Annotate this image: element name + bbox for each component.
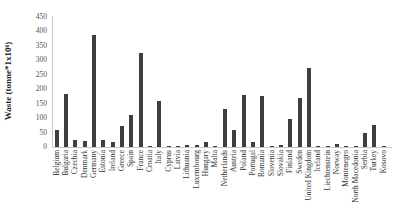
x-tick-label: Bulgaria <box>62 150 70 176</box>
x-tick-label: Estonia <box>99 150 107 173</box>
bar-norway <box>335 144 339 147</box>
x-tick-label: Serbia <box>361 150 369 169</box>
bar-estonia <box>101 140 105 147</box>
bar-romania <box>260 96 264 147</box>
bar-lithuania <box>185 145 189 147</box>
x-tick-label: Germany <box>90 150 98 178</box>
bar-belgium <box>55 130 59 147</box>
bar-finland <box>288 119 292 147</box>
x-tick-label: Kosovo <box>380 150 388 173</box>
x-tick-label: Latvia <box>174 150 182 169</box>
y-axis-label: Waste (tonne*1x10⁶) <box>3 16 13 146</box>
y-tick-label: 350 <box>36 42 47 50</box>
bar-iceland <box>316 146 320 147</box>
x-tick-label: Poland <box>240 150 248 171</box>
y-tick-label: 450 <box>36 13 47 21</box>
x-tick-label: North Macedonia <box>352 150 360 203</box>
bar-latvia <box>176 146 180 147</box>
bar-malta <box>213 146 217 147</box>
bar-denmark <box>83 141 87 147</box>
x-tick-label: Luxembourg <box>193 150 201 189</box>
y-tick-label: 300 <box>36 56 47 64</box>
x-tick-label: Slovakia <box>277 150 285 176</box>
x-tick-label: Portugal <box>249 150 257 175</box>
y-tick-label: 200 <box>36 85 47 93</box>
x-tick-label: Iceland <box>314 150 322 172</box>
x-tick-label: Malta <box>211 150 219 168</box>
x-tick-label: Greece <box>118 150 126 171</box>
x-tick-label: Netherlands <box>221 150 229 186</box>
bar-france <box>139 53 143 147</box>
bar-czechia <box>73 140 77 148</box>
x-tick-label: Denmark <box>81 150 89 178</box>
y-tick-label: 0 <box>43 143 47 151</box>
x-tick-label: United Kingdom <box>305 150 313 201</box>
x-tick-label: Italy <box>155 150 163 164</box>
bar-greece <box>120 126 124 147</box>
bar-slovakia <box>279 145 283 147</box>
bar-liechtenstein <box>326 146 330 147</box>
y-axis-line <box>52 16 53 147</box>
bar-portugal <box>251 142 255 147</box>
y-tick-label: 100 <box>36 114 47 122</box>
x-tick-label: Sweden <box>296 150 304 174</box>
x-axis-line <box>52 147 392 148</box>
bar-slovenia <box>270 146 274 147</box>
x-tick-label: Romania <box>258 150 266 177</box>
bar-bulgaria <box>64 94 68 147</box>
x-tick-label: Montenegro <box>342 150 350 187</box>
bar-croatia <box>148 146 152 147</box>
bar-hungary <box>204 142 208 147</box>
bar-montenegro <box>344 146 348 147</box>
bar-austria <box>232 130 236 147</box>
x-tick-label: Belgium <box>53 150 61 176</box>
x-tick-label: Austria <box>230 150 238 172</box>
bar-cyprus <box>167 146 171 147</box>
x-tick-label: Spain <box>127 150 135 167</box>
x-tick-label: Ireland <box>109 150 117 171</box>
x-tick-label: Cyprus <box>165 150 173 172</box>
bar-north-macedonia <box>354 146 358 147</box>
x-tick-label: Hungary <box>202 150 210 176</box>
bar-kosovo <box>382 146 386 147</box>
x-tick-label: Turkey <box>370 150 378 171</box>
y-tick-label: 400 <box>36 27 47 35</box>
bar-united-kingdom <box>307 68 311 147</box>
bar-italy <box>157 101 161 147</box>
x-tick-label: Finland <box>286 150 294 173</box>
x-tick-label: Norway <box>333 150 341 174</box>
y-tick-label: 50 <box>40 129 48 137</box>
bar-luxembourg <box>195 145 199 147</box>
x-tick-label: Czechia <box>71 150 79 174</box>
bar-sweden <box>298 98 302 147</box>
bar-serbia <box>363 133 367 147</box>
bar-turkey <box>372 125 376 147</box>
bar-chart: Waste (tonne*1x10⁶) 05010015020025030035… <box>0 0 401 218</box>
bar-poland <box>242 95 246 147</box>
x-tick-label: Liechtenstein <box>324 150 332 190</box>
bar-ireland <box>111 142 115 147</box>
y-tick-label: 250 <box>36 71 47 79</box>
x-tick-label: France <box>137 150 145 170</box>
x-tick-label: Croatia <box>146 150 154 172</box>
bar-germany <box>92 35 96 147</box>
x-tick-label: Slovenia <box>268 150 276 176</box>
x-tick-label: Lithuania <box>183 150 191 179</box>
bar-spain <box>129 115 133 147</box>
y-tick-label: 150 <box>36 100 47 108</box>
bar-netherlands <box>223 109 227 147</box>
